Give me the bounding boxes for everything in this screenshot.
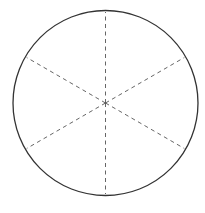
sector-circle-diagram <box>0 0 205 213</box>
diagram-canvas <box>0 0 205 213</box>
dashed-radii <box>27 12 185 194</box>
dashed-radius-5 <box>106 103 185 149</box>
dashed-radius-3 <box>27 103 106 149</box>
dashed-radius-2 <box>27 58 106 104</box>
dashed-radius-6 <box>106 58 185 104</box>
